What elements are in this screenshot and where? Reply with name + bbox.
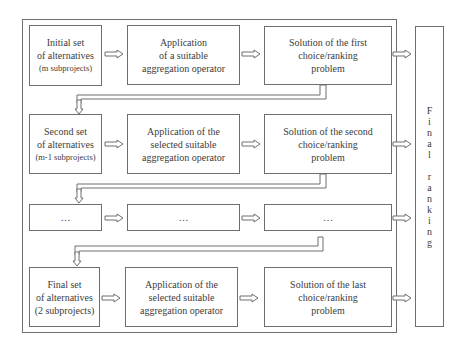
operator-last-line-1: Application of the (140, 278, 223, 291)
solution-1-line-2: choice/ranking (289, 49, 367, 62)
solution-box-1: Solution of the first choice/ranking pro… (264, 26, 392, 85)
solution-2-line-3: problem (283, 151, 373, 164)
solution-box-2: Solution of the second choice/ranking pr… (264, 114, 392, 174)
solution-1-line-3: problem (289, 62, 367, 75)
final-ranking-label: F i n a l r a n k i n g (427, 105, 433, 248)
ellipsis-operator-text: … (179, 211, 189, 224)
initial-set-line-1: Initial set (37, 36, 94, 49)
initial-set-line-2: of alternatives (37, 49, 94, 62)
operator-1-line-3: aggregation operator (142, 62, 225, 75)
operator-box-2: Application of the selected suitable agg… (127, 114, 240, 174)
final-set-line-1: Final set (35, 278, 95, 291)
operator-last-line-3: aggregation operator (140, 304, 223, 317)
operator-box-last: Application of the selected suitable agg… (125, 267, 238, 327)
second-set-line-3: (m-1 subprojects) (35, 151, 95, 164)
second-set-box: Second set of alternatives (m-1 subproje… (29, 114, 102, 174)
ellipsis-solution-box: … (264, 204, 392, 231)
final-set-box: Final set of alternatives (2 subprojects… (29, 267, 100, 327)
solution-box-last: Solution of the last choice/ranking prob… (264, 267, 392, 327)
ellipsis-solution-text: … (323, 211, 333, 224)
second-set-line-1: Second set (35, 125, 95, 138)
solution-last-line-3: problem (290, 304, 366, 317)
operator-2-line-2: selected suitable (142, 138, 225, 151)
ellipsis-set-box: … (29, 204, 102, 231)
initial-set-line-3: (m subprojects) (37, 62, 94, 75)
operator-box-1: Application of a suitable aggregation op… (127, 25, 240, 85)
solution-2-line-2: choice/ranking (283, 138, 373, 151)
final-set-line-3: (2 subprojects) (35, 304, 95, 317)
operator-1-line-2: of a suitable (142, 49, 225, 62)
operator-last-line-2: selected suitable (140, 291, 223, 304)
operator-1-line-1: Application (142, 36, 225, 49)
operator-2-line-3: aggregation operator (142, 151, 225, 164)
final-ranking-box: F i n a l r a n k i n g (415, 26, 444, 327)
ellipsis-operator-box: … (127, 204, 240, 231)
solution-last-line-1: Solution of the last (290, 278, 366, 291)
second-set-line-2: of alternatives (35, 138, 95, 151)
solution-1-line-1: Solution of the first (289, 36, 367, 49)
solution-last-line-2: choice/ranking (290, 291, 366, 304)
ellipsis-set-text: … (61, 211, 71, 224)
initial-set-box: Initial set of alternatives (m subprojec… (29, 25, 102, 86)
operator-2-line-1: Application of the (142, 125, 225, 138)
final-set-line-2: of alternatives (35, 291, 95, 304)
solution-2-line-1: Solution of the second (283, 125, 373, 138)
